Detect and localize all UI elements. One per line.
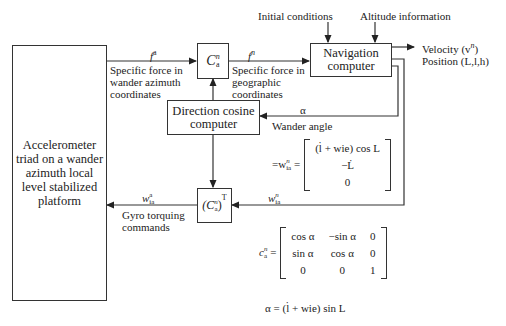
f-a-symbol: fa <box>150 47 157 62</box>
matrix-cell: sin α <box>291 247 314 259</box>
matrix-cell: cos α <box>291 230 314 242</box>
c-a-n-matrix: cos α −sin α 0 sin α cos α 0 0 0 1 <box>280 227 386 279</box>
accelerometer-label: Accelerometer triad on a wander azimuth … <box>16 138 104 208</box>
matrix-cell: cos α <box>329 247 357 259</box>
matrix-cell: 0 <box>370 230 376 242</box>
w-ia-n-equation: =wnia = (l̇ + wie) cos L −L̇ 0 <box>272 139 391 191</box>
matrix-cell: 1 <box>370 264 376 276</box>
transpose-symbol: (C <box>202 198 214 213</box>
alpha-equation: α = (l̇ + wie) sin L <box>265 302 346 314</box>
altitude-information-label: Altitude information <box>360 10 451 22</box>
alpha-symbol: α <box>300 104 306 116</box>
wander-angle-label: Wander angle <box>272 120 333 132</box>
matrix-cell: −L̇ <box>315 159 380 171</box>
transpose-block: (Cna)T <box>197 188 232 223</box>
velocity-output-label: Velocity (vn) <box>422 40 478 55</box>
initial-conditions-label: Initial conditions <box>258 10 333 22</box>
f-a-description: Specific force in wander azimuth coordin… <box>110 64 198 100</box>
matrix-cell: 0 <box>370 247 376 259</box>
c-symbol: C <box>206 53 215 69</box>
w-ia-a-label: waia <box>142 192 154 206</box>
c-a-n-equation: cna = cos α −sin α 0 sin α cos α 0 0 0 1 <box>259 227 387 279</box>
f-n-symbol: fn <box>248 47 255 62</box>
w-ia-n-matrix: (l̇ + wie) cos L −L̇ 0 <box>304 139 391 191</box>
c-a-n-block: Cna <box>197 43 229 79</box>
accelerometer-platform-block: Accelerometer triad on a wander azimuth … <box>12 45 107 301</box>
position-output-label: Position (L,l,h) <box>422 55 489 67</box>
matrix-cell: (l̇ + wie) cos L <box>315 142 380 154</box>
gyro-torquing-label: Gyro torquing commands <box>122 209 192 233</box>
direction-cosine-label: Direction cosine computer <box>168 105 259 131</box>
f-n-description: Specific force in geographic coordinates <box>232 64 312 100</box>
direction-cosine-computer-block: Direction cosine computer <box>167 100 260 135</box>
navigation-computer-block: Navigation computer <box>310 43 392 77</box>
matrix-cell: 0 <box>329 264 357 276</box>
transpose-superscript: T <box>222 193 227 202</box>
navigation-computer-label: Navigation computer <box>312 47 390 73</box>
matrix-cell: 0 <box>315 176 380 188</box>
matrix-cell: 0 <box>291 264 314 276</box>
c-subscript: a <box>216 61 220 69</box>
w-ia-n-label: wnia <box>268 192 280 206</box>
matrix-cell: −sin α <box>329 230 357 242</box>
